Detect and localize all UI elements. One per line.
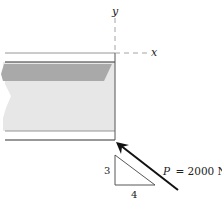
slope-horizontal-label: 4 — [131, 189, 137, 200]
beam-top-flange — [1, 64, 112, 81]
force-value: = 2000 N — [175, 165, 222, 177]
beam-force-diagram: y x 3 4 P = 2000 N — [0, 0, 222, 202]
y-axis-label: y — [111, 5, 119, 18]
slope-triangle — [115, 155, 155, 185]
x-axis-label: x — [151, 46, 158, 59]
slope-vertical-label: 3 — [104, 165, 110, 176]
force-label: P = 2000 N — [162, 165, 222, 177]
force-symbol: P — [162, 165, 171, 177]
